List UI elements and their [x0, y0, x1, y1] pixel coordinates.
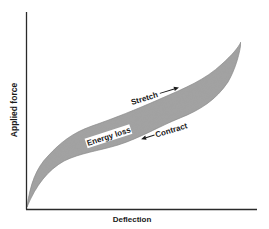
hysteresis-diagram: Applied force Deflection Stretch Contrac… — [0, 0, 269, 229]
y-axis-label: Applied force — [9, 83, 19, 138]
energy-loss-region — [27, 42, 241, 207]
x-axis-label: Deflection — [113, 215, 152, 224]
